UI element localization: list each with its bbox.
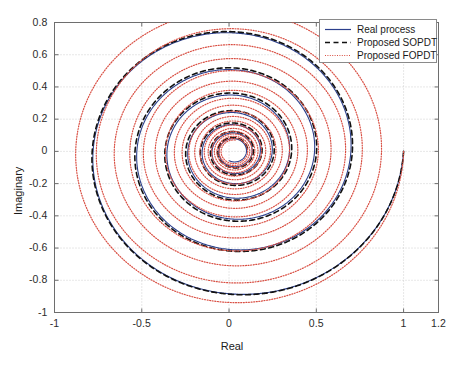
legend[interactable]: Real process Proposed SOPDT Proposed FOP… [319, 19, 437, 63]
x-tick-label: 0 [209, 317, 249, 329]
legend-item-proposed-sopdt[interactable]: Proposed SOPDT [324, 36, 437, 49]
y-tick-label: -1 [0, 306, 48, 318]
axes-frame [55, 23, 439, 313]
legend-label-proposed-sopdt: Proposed SOPDT [357, 37, 437, 48]
x-tick-label: -1 [35, 317, 75, 329]
y-tick-label: 0.2 [0, 112, 48, 124]
y-tick-label: 0.6 [0, 48, 48, 60]
x-tick-label: -0.5 [122, 317, 162, 329]
grid-lines [55, 23, 439, 313]
tick-marks [55, 23, 439, 313]
legend-swatch-real-process [324, 24, 352, 35]
x-tick-label: 0.5 [296, 317, 336, 329]
legend-label-proposed-fopdt: Proposed FOPDT [357, 50, 436, 61]
y-tick-label: 0.8 [0, 16, 48, 28]
legend-item-proposed-fopdt[interactable]: Proposed FOPDT [324, 49, 436, 62]
legend-swatch-proposed-sopdt [324, 37, 352, 48]
nyquist-plot-figure: -1-0.500.511.2-1-0.8-0.6-0.4-0.200.20.40… [0, 0, 464, 365]
legend-swatch-proposed-fopdt [324, 50, 352, 61]
legend-item-real-process[interactable]: Real process [324, 23, 415, 36]
y-axis-title: Imaginary [12, 167, 24, 215]
x-axis-title: Real [0, 340, 464, 352]
y-tick-label: 0 [0, 144, 48, 156]
y-tick-label: -0.6 [0, 241, 48, 253]
legend-label-real-process: Real process [357, 24, 415, 35]
y-tick-label: 0.4 [0, 80, 48, 92]
x-tick-label: 1.2 [419, 317, 459, 329]
y-tick-label: -0.8 [0, 273, 48, 285]
